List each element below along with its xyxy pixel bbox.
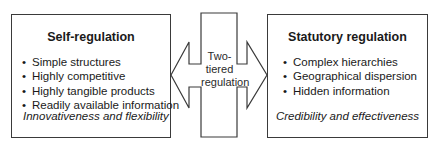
bullet-icon: • [22, 69, 32, 83]
self-regulation-box: Self-regulation •Simple structures •High… [11, 14, 171, 138]
statutory-regulation-footer: Credibility and effectiveness [268, 110, 427, 122]
list-item: •Hidden information [283, 84, 417, 98]
list-item-text: Simple structures [32, 56, 121, 68]
statutory-regulation-box: Statutory regulation •Complex hierarchie… [267, 14, 428, 138]
list-item-text: Highly competitive [32, 70, 125, 82]
list-item: •Complex hierarchies [283, 55, 417, 69]
label-line: Two- [201, 50, 238, 63]
statutory-regulation-list: •Complex hierarchies •Geographical dispe… [283, 55, 417, 98]
self-regulation-title: Self-regulation [12, 30, 170, 44]
list-item-text: Geographical dispersion [293, 70, 417, 82]
list-item: •Simple structures [22, 55, 179, 69]
bullet-icon: • [22, 84, 32, 98]
list-item: •Highly tangible products [22, 84, 179, 98]
label-line: regulation [201, 76, 238, 89]
list-item-text: Highly tangible products [32, 85, 155, 97]
label-line: tiered [201, 63, 238, 76]
list-item-text: Hidden information [293, 85, 390, 97]
two-tiered-regulation-label: Two- tiered regulation [201, 50, 238, 89]
list-item: •Geographical dispersion [283, 69, 417, 83]
bullet-icon: • [283, 69, 293, 83]
list-item: •Highly competitive [22, 69, 179, 83]
self-regulation-list: •Simple structures •Highly competitive •… [22, 55, 179, 112]
bullet-icon: • [22, 55, 32, 69]
bullet-icon: • [283, 84, 293, 98]
bullet-icon: • [283, 55, 293, 69]
statutory-regulation-title: Statutory regulation [268, 30, 427, 44]
list-item-text: Complex hierarchies [293, 56, 398, 68]
self-regulation-footer: Innovativeness and flexibility [23, 110, 170, 122]
